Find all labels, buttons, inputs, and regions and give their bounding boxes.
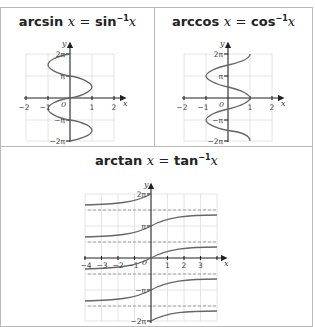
charts-canvas: −2 −1 1 2 0 x y 2π π −π −2π: [0, 0, 315, 327]
tick-label: −π: [212, 116, 223, 125]
y-axis-label: y: [143, 180, 149, 189]
y-axis-label: y: [61, 39, 67, 48]
tick-label: 2: [182, 261, 187, 270]
tick-label: −1: [39, 103, 50, 112]
x-axis-label: x: [123, 99, 128, 108]
tick-label: 1: [165, 261, 170, 270]
tick-label: −2: [18, 103, 29, 112]
tick-label: −3: [96, 261, 107, 270]
x-axis-label: x: [224, 259, 229, 268]
tick-label: 2: [270, 103, 275, 112]
origin-label: 0: [219, 100, 224, 109]
tick-label: 2π: [137, 190, 147, 199]
tick-label: −1: [197, 103, 208, 112]
tick-label: −π: [135, 286, 146, 295]
tick-label: 2π: [214, 50, 224, 59]
tick-label: 1: [248, 103, 253, 112]
arcsin-chart: −2 −1 1 2 0 x y 2π π −π −2π: [18, 39, 128, 146]
tick-label: −4: [80, 261, 91, 270]
origin-label: 0: [61, 100, 66, 109]
tick-label: π: [141, 222, 146, 231]
tick-label: −2π: [207, 137, 223, 146]
axes: [84, 184, 226, 323]
tick-label: −2π: [49, 137, 65, 146]
tick-label: 1: [90, 103, 95, 112]
tick-label: −2π: [130, 317, 146, 326]
tick-label: −1: [127, 261, 138, 270]
tick-label: π: [60, 72, 65, 81]
y-axis-label: y: [219, 39, 225, 48]
arccos-chart: −2 −1 1 2 0 x y 2π π −π −2π: [176, 39, 286, 146]
tick-label: −2: [176, 103, 187, 112]
tick-label: −2: [112, 261, 123, 270]
tick-label: 2: [112, 103, 117, 112]
tick-label: 3: [198, 261, 203, 270]
tick-label: 2π: [56, 50, 66, 59]
tick-label: −π: [54, 116, 65, 125]
axes: [182, 43, 283, 142]
arctan-chart: −4 −3 −2 −1 1 2 3 0 x y 2π π −π −2π: [80, 180, 229, 326]
origin-label: 0: [142, 258, 147, 267]
x-axis-label: x: [281, 99, 286, 108]
tick-label: π: [218, 72, 223, 81]
axes: [24, 43, 125, 142]
